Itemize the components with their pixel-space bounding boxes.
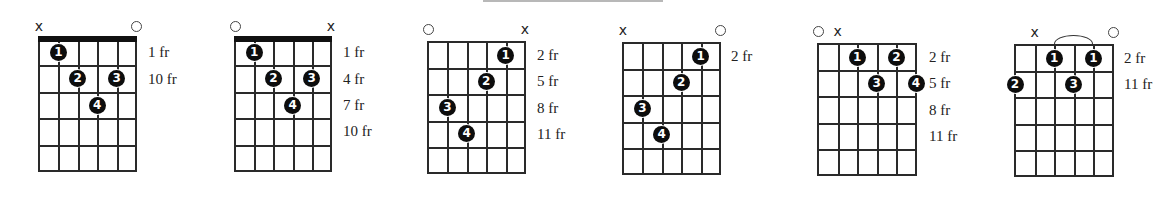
finger-dot: 4 <box>908 75 925 92</box>
fret-line <box>1016 150 1112 152</box>
finger-dot: 3 <box>439 99 456 116</box>
fret-line <box>1016 124 1112 126</box>
fret-line <box>429 147 524 149</box>
string-line <box>1035 46 1037 175</box>
muted-string-icon: x <box>518 22 532 36</box>
top-divider-line <box>483 0 663 2</box>
fret-position-label: 11 fr <box>1124 76 1152 92</box>
fret-line <box>819 123 915 125</box>
finger-dot: 3 <box>868 75 885 92</box>
fret-line <box>40 65 135 67</box>
fret-position-label: 8 fr <box>537 100 558 116</box>
muted-string-icon: x <box>831 24 845 38</box>
fret-line <box>624 95 719 97</box>
muted-string-icon: x <box>32 19 46 33</box>
fret-line <box>429 94 524 96</box>
fret-line <box>624 148 719 150</box>
fret-line <box>429 68 524 70</box>
finger-dot: 1 <box>692 48 709 65</box>
finger-dot: 1 <box>497 47 514 64</box>
open-string-icon <box>813 26 824 37</box>
finger-dot: 4 <box>89 97 106 114</box>
fret-position-label: 11 fr <box>929 128 957 144</box>
open-string-icon <box>423 24 434 35</box>
muted-string-icon: x <box>616 23 630 37</box>
fret-line <box>1016 71 1112 73</box>
finger-dot: 1 <box>849 49 866 66</box>
string-line <box>78 40 80 170</box>
fret-position-label: 8 fr <box>929 102 950 118</box>
finger-dot: 2 <box>1007 76 1024 93</box>
string-line <box>681 44 683 173</box>
fret-line <box>236 65 330 67</box>
finger-dot: 1 <box>246 44 263 61</box>
muted-string-icon: x <box>324 19 338 33</box>
fret-line <box>624 122 719 124</box>
fret-position-label: 10 fr <box>148 71 177 87</box>
string-line <box>486 43 488 172</box>
fret-line <box>429 121 524 123</box>
fret-line <box>819 96 915 98</box>
fret-position-label: 10 fr <box>343 123 372 139</box>
finger-dot: 3 <box>634 100 651 117</box>
nut-bar <box>234 36 332 42</box>
finger-dot: 1 <box>1046 50 1063 67</box>
string-line <box>273 40 275 170</box>
fret-line <box>819 149 915 151</box>
fret-line <box>236 92 330 94</box>
fret-position-label: 5 fr <box>929 75 950 91</box>
open-string-icon <box>230 21 241 32</box>
finger-dot: 2 <box>478 73 495 90</box>
finger-dot: 2 <box>673 74 690 91</box>
fret-position-label: 2 fr <box>1124 50 1145 66</box>
fret-line <box>819 70 915 72</box>
fret-position-label: 2 fr <box>731 48 752 64</box>
open-string-icon <box>131 21 142 32</box>
fret-position-label: 4 fr <box>343 71 364 87</box>
fret-line <box>40 92 135 94</box>
string-line <box>312 40 314 170</box>
finger-dot: 1 <box>1085 50 1102 67</box>
fret-line <box>40 118 135 120</box>
fret-line <box>1016 97 1112 99</box>
finger-dot: 4 <box>284 97 301 114</box>
barre-arc <box>1054 35 1093 44</box>
string-line <box>877 45 879 174</box>
finger-dot: 2 <box>265 70 282 87</box>
fret-position-label: 11 fr <box>537 126 565 142</box>
finger-dot: 1 <box>50 44 67 61</box>
fret-position-label: 1 fr <box>148 44 169 60</box>
string-line <box>117 40 119 170</box>
finger-dot: 3 <box>1065 76 1082 93</box>
string-line <box>662 44 664 173</box>
string-line <box>1074 46 1076 175</box>
fret-position-label: 2 fr <box>537 47 558 63</box>
fret-line <box>236 118 330 120</box>
muted-string-icon: x <box>1028 25 1042 39</box>
fret-position-label: 5 fr <box>537 73 558 89</box>
open-string-icon <box>715 25 726 36</box>
finger-dot: 2 <box>888 49 905 66</box>
string-line <box>467 43 469 172</box>
fret-line <box>624 69 719 71</box>
string-line <box>838 45 840 174</box>
fret-position-label: 1 fr <box>343 44 364 60</box>
fret-position-label: 7 fr <box>343 97 364 113</box>
fret-line <box>40 145 135 147</box>
open-string-icon <box>1108 27 1119 38</box>
fret-position-label: 2 fr <box>929 49 950 65</box>
fret-line <box>236 145 330 147</box>
nut-bar <box>38 36 137 42</box>
